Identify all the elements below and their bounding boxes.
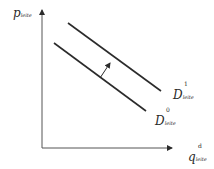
d0-label: Dleite 0 [155,112,176,128]
y-axis-label: pleite [13,4,32,20]
demand-shift-chart [0,0,214,169]
d1-label: Dleite 1 [173,86,194,102]
demand-curve-d0 [54,43,146,111]
shift-arrow [100,63,110,78]
demand-curve-d1 [68,23,161,91]
x-axis-label: qleite d [188,148,207,164]
